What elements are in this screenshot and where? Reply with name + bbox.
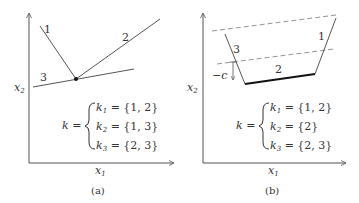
case-k1: k1 = {1, 2} [270, 101, 332, 115]
caption-a: (a) [91, 185, 105, 196]
line-label-1: 1 [318, 30, 325, 43]
panel-b: 1 2 3 −c x2 x1 k = k1 = {1, 2} k2 = {2} … [187, 13, 346, 196]
k-definition-prefix: k = [236, 119, 255, 132]
line-label-1: 1 [44, 23, 51, 36]
offset-label: −c [212, 69, 227, 82]
x-axis-label: x1 [95, 164, 106, 178]
constraint-line-1 [315, 18, 336, 74]
y-axis-label: x2 [14, 81, 25, 95]
k-definition-prefix: k = [62, 119, 81, 132]
panel-a: 1 2 3 x2 x1 k = k1 = {1, 2} k2 = {1, 3} … [14, 13, 174, 196]
line-label-2: 2 [275, 63, 282, 76]
dashed-objective-upper [212, 15, 336, 31]
intersection-point [74, 77, 78, 81]
constraint-line-3 [33, 69, 134, 87]
case-k2: k2 = {2} [270, 120, 318, 134]
constraint-line-2 [76, 19, 160, 79]
constraint-line-3 [225, 34, 245, 84]
case-k3: k3 = {2, 3} [96, 139, 158, 153]
line-label-2: 2 [122, 31, 129, 44]
left-brace [259, 103, 269, 149]
case-k2: k2 = {1, 3} [96, 120, 158, 134]
case-k1: k1 = {1, 2} [96, 101, 158, 115]
y-axis-label: x2 [187, 81, 198, 95]
line-label-3: 3 [233, 43, 240, 56]
x-axis-label: x1 [268, 164, 279, 178]
line-label-3: 3 [40, 71, 47, 84]
left-brace [85, 103, 95, 149]
figure: 1 2 3 x2 x1 k = k1 = {1, 2} k2 = {1, 3} … [0, 0, 359, 203]
case-k3: k3 = {2, 3} [270, 139, 332, 153]
caption-b: (b) [265, 185, 279, 196]
